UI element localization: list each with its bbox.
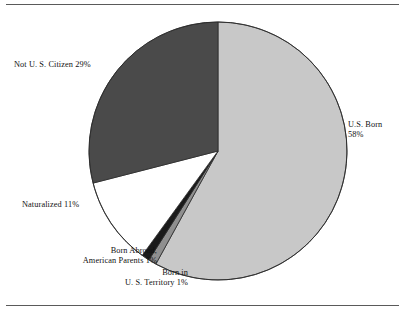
- slice-label-not-citizen: Not U. S. Citizen 29%: [14, 60, 91, 70]
- slice-label-us-territory-line2: U. S. Territory 1%: [40, 278, 188, 288]
- slice-label-born-abroad-line2: American Parents 1%: [18, 256, 157, 266]
- slice-label-us-born-line1: U.S. Born: [348, 120, 382, 130]
- slice-label-naturalized: Naturalized 11%: [22, 200, 79, 210]
- slice-label-born-abroad: Born Abroad, American Parents 1%: [18, 246, 157, 267]
- slice-label-naturalized-line1: Naturalized 11%: [22, 200, 79, 210]
- slice-label-us-territory: Born in U. S. Territory 1%: [40, 268, 188, 289]
- pie-slice-group: [89, 22, 347, 280]
- slice-label-us-born: U.S. Born 58%: [348, 120, 382, 141]
- slice-label-not-citizen-line1: Not U. S. Citizen 29%: [14, 60, 91, 70]
- slice-label-born-abroad-line1: Born Abroad,: [18, 246, 157, 256]
- chart-figure: Not U. S. Citizen 29% U.S. Born 58% Natu…: [0, 0, 405, 313]
- slice-label-us-born-line2: 58%: [348, 130, 382, 140]
- slice-label-us-territory-line1: Born in: [40, 268, 188, 278]
